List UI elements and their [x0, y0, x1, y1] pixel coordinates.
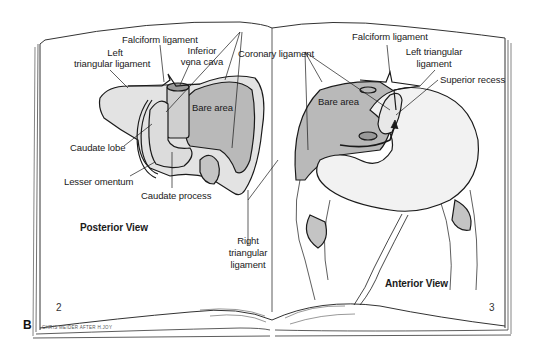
label-right-triangular-line2: triangular — [225, 247, 271, 258]
label-left-triangular-line2: triangular ligament — [74, 58, 150, 69]
label-lesser-omentum: Lesser omentum — [64, 176, 133, 187]
label-right-triangular-line3: ligament — [225, 259, 271, 270]
page-number-right: 3 — [489, 302, 495, 313]
label-left-triangular-line1: Left — [95, 47, 135, 58]
posterior-view-title: Posterior View — [80, 222, 148, 233]
label-caudate-process: Caudate process — [141, 190, 211, 201]
artist-signature: CHRIS MEIDER AFTER H.JOY — [42, 325, 112, 330]
label-bare-area-right: Bare area — [318, 96, 359, 107]
anterior-view-title: Anterior View — [385, 278, 448, 289]
panel-letter: B — [23, 318, 32, 332]
anatomy-figure: Falciform ligament Left triangular ligam… — [0, 0, 539, 345]
label-ivc-line1: Inferior — [180, 45, 224, 56]
label-caudate-lobe: Caudate lobe — [70, 142, 125, 153]
label-left-triangular-right-line1: Left triangular — [400, 46, 468, 57]
label-ivc-line2: vena cava — [180, 56, 224, 67]
label-coronary-ligament: Coronary ligament — [238, 48, 314, 59]
label-superior-recess: Superior recess — [440, 74, 505, 85]
page-number-left: 2 — [56, 302, 62, 313]
label-falciform-ligament-left: Falciform ligament — [122, 34, 198, 45]
label-falciform-ligament-right: Falciform ligament — [352, 31, 428, 42]
label-right-triangular-line1: Right — [225, 235, 271, 246]
label-left-triangular-right-line2: ligament — [400, 58, 468, 69]
label-bare-area-left: Bare area — [192, 102, 233, 113]
